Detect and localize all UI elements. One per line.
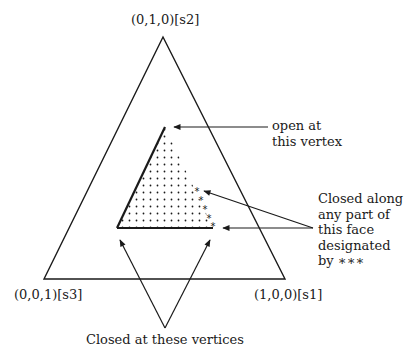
arrow-closed-vertex-left xyxy=(120,240,165,328)
annotation-closed-vertices: Closed at these vertices xyxy=(86,332,244,347)
dotted-region xyxy=(117,127,213,228)
annotation-closed-face: Closed along any part of this face desig… xyxy=(318,191,403,269)
vertex-label-bottom-left: (0,0,1)[s3] xyxy=(14,287,82,302)
arrow-closed-vertex-right xyxy=(165,240,210,328)
svg-text:*: * xyxy=(211,221,216,232)
vertex-label-top: (0,1,0)[s2] xyxy=(131,12,199,27)
arrow-closed-face-1 xyxy=(204,191,313,228)
annotation-open-vertex: open at this vertex xyxy=(272,118,342,149)
vertex-label-bottom-right: (1,0,0)[s1] xyxy=(254,287,322,302)
